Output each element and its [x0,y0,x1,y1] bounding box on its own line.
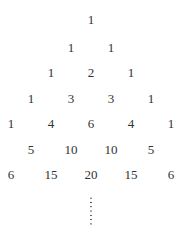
vertical-ellipsis-icon [90,196,92,226]
triangle-cell: 10 [65,143,78,157]
triangle-cell: 3 [108,92,115,106]
triangle-cell: 2 [88,66,95,80]
triangle-cell: 1 [168,117,175,131]
triangle-cell: 20 [85,168,98,182]
triangle-cell: 3 [68,92,75,106]
triangle-cell: 6 [168,168,175,182]
triangle-cell: 1 [128,66,135,80]
triangle-cell: 4 [128,117,135,131]
triangle-cell: 1 [108,41,115,55]
triangle-cell: 15 [45,168,58,182]
triangle-cell: 4 [48,117,55,131]
triangle-cell: 1 [28,92,35,106]
triangle-cell: 5 [28,143,35,157]
triangle-cell: 5 [148,143,155,157]
triangle-cell: 1 [48,66,55,80]
triangle-cell: 15 [125,168,138,182]
triangle-cell: 6 [8,168,15,182]
triangle-cell: 1 [88,13,95,27]
triangle-cell: 1 [148,92,155,106]
triangle-cell: 1 [68,41,75,55]
triangle-cell: 10 [105,143,118,157]
triangle-cell: 1 [8,117,15,131]
triangle-cell: 6 [88,117,95,131]
